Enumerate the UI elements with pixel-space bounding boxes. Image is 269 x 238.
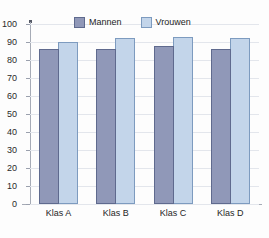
bar-mannen-klas-d [211,49,231,204]
bar-group [154,24,193,204]
legend-item-vrouwen: Vrouwen [141,17,191,28]
bar-group [96,24,135,204]
bar-group [211,24,250,204]
y-axis-tick [26,132,30,133]
y-axis-label: 80 [0,56,17,65]
chart-legend: Mannen Vrouwen [74,17,191,28]
y-axis-tick [26,150,30,151]
bar-vrouwen-klas-a [58,42,78,204]
y-axis-tick [26,42,30,43]
bar-mannen-klas-c [154,46,174,204]
y-axis-label: 100 [0,20,17,29]
y-axis-tick [26,78,30,79]
chart-title-clipped [10,0,259,7]
y-axis-tick [26,186,30,187]
bar-vrouwen-klas-d [230,38,250,204]
y-axis-label: 50 [0,110,17,119]
x-axis-label: Klas D [195,208,265,218]
y-axis-label: 30 [0,146,17,155]
legend-swatch-mannen [74,17,85,28]
y-axis-tick [26,60,30,61]
bar-group [39,24,78,204]
y-axis-label: 70 [0,74,17,83]
gridline [30,204,259,205]
y-axis-label: 20 [0,164,17,173]
plot-area: 0102030405060708090100 [30,24,259,204]
y-axis-label: 40 [0,128,17,137]
legend-swatch-vrouwen [141,17,152,28]
bar-vrouwen-klas-b [115,38,135,204]
bar-mannen-klas-b [96,49,116,204]
y-axis-tick [26,114,30,115]
y-axis-tick [26,24,30,25]
y-axis-tick [26,96,30,97]
bar-vrouwen-klas-c [173,37,193,204]
y-axis-label: 10 [0,182,17,191]
y-axis-label: 90 [0,38,17,47]
bar-chart: 0102030405060708090100 Mannen Vrouwen Kl… [0,0,269,238]
y-axis-label: 60 [0,92,17,101]
legend-item-mannen: Mannen [74,17,122,28]
y-axis-tick [26,168,30,169]
y-axis-label: 0 [0,200,17,209]
legend-label-vrouwen: Vrouwen [156,17,191,28]
legend-label-mannen: Mannen [89,17,122,28]
y-axis-tick [26,204,30,205]
bar-mannen-klas-a [39,49,59,204]
